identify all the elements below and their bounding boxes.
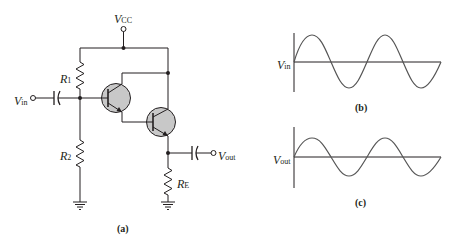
vcc-label: VCC [114, 10, 132, 26]
q1-transistor-icon [80, 73, 131, 122]
r2-resistor-icon [76, 140, 84, 202]
vout-terminal [211, 151, 216, 156]
vout-waveform-plot [294, 127, 441, 188]
output-capacitor-icon [168, 146, 211, 160]
vcc-terminal [121, 27, 126, 49]
panel-c-caption: (c) [355, 198, 366, 208]
r1-resistor-icon [76, 48, 84, 140]
ground-icon [161, 202, 175, 210]
input-capacitor-icon [54, 91, 80, 105]
panel-b-vin-label: Vin [277, 56, 291, 72]
r1-label: R1 [60, 70, 71, 86]
vin-terminal [31, 96, 55, 101]
re-resistor-icon [164, 168, 172, 202]
panel-a-caption: (a) [117, 224, 129, 234]
vcc-junction-dot [122, 46, 126, 50]
circuit-diagram [0, 0, 456, 240]
re-label: RE [177, 175, 189, 191]
ground-icon [73, 202, 87, 210]
vin-label: Vin [14, 92, 28, 108]
vout-label: Vout [218, 147, 236, 163]
r2-label: R2 [60, 147, 71, 163]
vin-waveform-plot [294, 33, 441, 92]
q2-transistor-icon [122, 108, 176, 169]
panel-c-vout-label: Vout [273, 151, 291, 167]
panel-b-caption: (b) [355, 103, 367, 113]
